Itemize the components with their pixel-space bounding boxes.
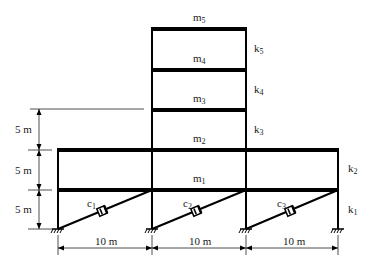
stiffness-label-k4: k4 [254,84,264,97]
damper-label-c2: c2 [183,198,192,211]
stiffness-label-k2: k2 [348,163,358,176]
mass-base: m [193,132,202,144]
mass-sub: 5 [202,16,206,25]
damper-label-c1: c1 [87,198,96,211]
stiffness-sub: 4 [260,88,264,97]
damper-c1-icon [97,206,107,216]
damper-sub: 3 [282,202,286,211]
mass-label-m3: m3 [193,93,206,106]
mass-label-m1: m1 [193,173,206,186]
fixed-support-icon [239,229,252,233]
span-label-bay-3: 10 m [283,236,305,247]
vertical-dimension [28,109,144,229]
stiffness-sub: 2 [354,167,358,176]
mass-base: m [193,92,202,104]
stiffness-sub: 3 [260,128,264,137]
stiffness-label-k3: k3 [254,124,264,137]
mass-base: m [193,11,202,23]
fixed-support-icon [51,229,64,233]
mass-label-m4: m4 [193,53,206,66]
stiffness-sub: 5 [260,47,264,56]
damper-icons [97,206,295,216]
mass-label-m5: m5 [193,12,206,25]
frame-diagram [0,0,370,275]
height-label-storey-2: 5 m [15,165,32,176]
mass-sub: 3 [202,97,206,106]
mass-base: m [193,52,202,64]
mass-sub: 1 [202,177,206,186]
damper-c3-icon [285,206,295,216]
supports [51,229,344,233]
mass-label-m2: m2 [193,133,206,146]
stiffness-sub: 1 [354,208,358,217]
mass-sub: 4 [202,57,206,66]
stiffness-label-k1: k1 [348,204,358,217]
damper-sub: 2 [188,202,192,211]
height-label-storey-1: 5 m [15,204,32,215]
damper-label-c3: c3 [277,198,286,211]
damper-sub: 1 [92,202,96,211]
fixed-support-icon [145,229,158,233]
stiffness-label-k5: k5 [254,43,264,56]
height-label-storey-3: 5 m [15,124,32,135]
mass-base: m [193,172,202,184]
damper-c2-icon [191,206,201,216]
span-label-bay-2: 10 m [189,236,211,247]
fixed-support-icon [331,229,344,233]
mass-sub: 2 [202,137,206,146]
span-label-bay-1: 10 m [95,236,117,247]
